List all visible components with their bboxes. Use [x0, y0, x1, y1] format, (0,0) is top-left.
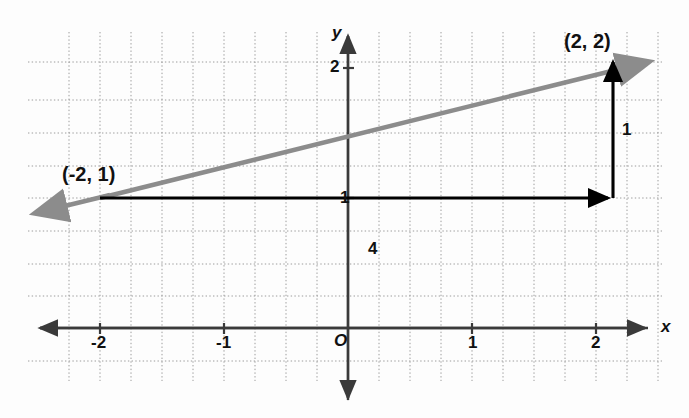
x-tick-label--1: -1: [216, 334, 231, 351]
y-tick-label-2: 2: [330, 58, 339, 75]
y-axis-label: y: [332, 24, 341, 41]
run-value-label: 4: [368, 240, 377, 257]
x-tick-label-2: 2: [591, 334, 600, 351]
origin-label: O: [334, 332, 347, 349]
point-label-right: (2, 2): [564, 31, 611, 51]
graph-canvas: x y O -2 -1 1 2 2 1 (-2, 1) (2, 2) 1 4: [0, 0, 689, 418]
x-tick-label--2: -2: [91, 334, 106, 351]
x-axis-label: x: [661, 318, 670, 335]
rise-value-label: 1: [622, 121, 631, 138]
coordinate-plane-svg: [0, 0, 689, 418]
point-label-left: (-2, 1): [62, 164, 115, 184]
y-tick-label-1: 1: [340, 189, 349, 206]
x-tick-label-1: 1: [468, 334, 477, 351]
